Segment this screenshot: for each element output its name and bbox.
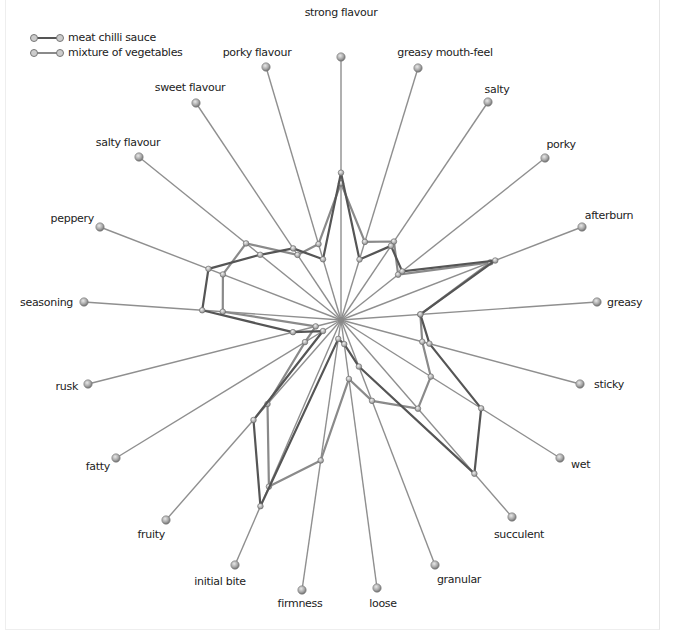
axis-label: strong flavour: [305, 6, 378, 19]
axis-end-knob-icon: [541, 154, 549, 162]
axis-end-knob-icon: [231, 561, 239, 569]
data-point: [220, 272, 226, 278]
data-point: [313, 324, 319, 330]
axis-label: greasy mouth-feel: [397, 46, 493, 59]
axis-labels: strong flavourgreasy mouth-feelsaltypork…: [20, 6, 643, 610]
axis-label: peppery: [51, 212, 95, 225]
axis-porky-flavour: [266, 67, 341, 320]
data-point: [295, 252, 301, 258]
axis-end-knob-icon: [593, 298, 601, 306]
data-point: [427, 341, 433, 347]
data-point: [346, 376, 352, 382]
axis-label: salty flavour: [96, 136, 161, 149]
axis-end-knob-icon: [135, 153, 143, 161]
data-point: [199, 307, 205, 313]
axis-end-knob-icon: [414, 64, 422, 72]
legend-label: meat chilli sauce: [68, 31, 156, 44]
axis-granular: [341, 320, 435, 565]
axis-sweet-flavour: [196, 103, 341, 320]
line-marker-icon: [30, 49, 64, 57]
axis-end-knob-icon: [192, 99, 200, 107]
center-hub: [338, 317, 344, 323]
data-point: [257, 252, 263, 258]
axis-end-knob-icon: [556, 454, 564, 462]
line-marker-icon: [30, 34, 64, 42]
axis-label: sticky: [594, 378, 625, 391]
axes-layer: [80, 53, 601, 594]
data-point: [428, 374, 434, 380]
data-point: [418, 312, 424, 318]
axis-end-knob-icon: [373, 584, 381, 592]
legend-item-mixture-of-vegetables: mixture of vegetables: [30, 45, 183, 60]
axis-label: loose: [369, 597, 397, 610]
legend: meat chilli sauce mixture of vegetables: [30, 30, 183, 60]
data-point: [335, 336, 341, 342]
data-point: [338, 170, 344, 176]
axis-end-knob-icon: [162, 516, 170, 524]
axis-loose: [341, 320, 377, 588]
axis-end-knob-icon: [96, 223, 104, 231]
data-point: [472, 471, 478, 477]
axis-end-knob-icon: [298, 586, 306, 594]
axis-label: firmness: [278, 597, 323, 610]
radar-chart: strong flavourgreasy mouth-feelsaltypork…: [0, 0, 673, 637]
axis-salty: [341, 102, 488, 320]
axis-label: salty: [485, 83, 511, 96]
axis-end-knob-icon: [578, 223, 586, 231]
axis-label: succulent: [494, 528, 545, 541]
data-point: [419, 339, 425, 345]
axis-label: initial bite: [194, 575, 246, 588]
data-point: [290, 246, 296, 252]
axis-end-knob-icon: [80, 298, 88, 306]
axis-label: porky: [546, 138, 576, 151]
axis-label: greasy: [607, 296, 643, 309]
axis-label: seasoning: [20, 296, 73, 309]
data-point: [316, 241, 322, 247]
data-point: [318, 458, 324, 464]
axis-end-knob-icon: [576, 380, 584, 388]
data-point: [341, 341, 347, 347]
data-point: [320, 256, 326, 262]
data-point: [357, 257, 363, 263]
axis-label: sweet flavour: [155, 81, 226, 94]
legend-item-meat-chilli-sauce: meat chilli sauce: [30, 30, 183, 45]
axis-wet: [341, 320, 560, 458]
axis-end-knob-icon: [508, 513, 516, 521]
data-point: [415, 406, 421, 412]
data-point: [206, 266, 212, 272]
data-point: [302, 339, 308, 345]
data-point: [492, 258, 498, 264]
data-point: [388, 243, 394, 249]
data-point: [258, 503, 264, 509]
axis-label: granular: [437, 573, 482, 586]
axis-end-knob-icon: [484, 98, 492, 106]
axis-end-knob-icon: [262, 63, 270, 71]
axis-salty-flavour: [139, 157, 341, 320]
data-point: [243, 241, 249, 247]
axis-label: fatty: [86, 460, 111, 473]
data-point: [362, 239, 368, 245]
axis-label: afterburn: [585, 209, 634, 222]
axis-label: rusk: [56, 380, 79, 393]
data-point: [356, 364, 362, 370]
axis-end-knob-icon: [337, 53, 345, 61]
axis-succulent: [341, 320, 512, 517]
axis-initial-bite: [235, 320, 341, 565]
data-point: [478, 406, 484, 412]
axis-end-knob-icon: [84, 380, 92, 388]
data-point: [251, 417, 257, 423]
axis-greasy-mouth-feel: [341, 68, 418, 320]
axis-label: wet: [571, 458, 591, 471]
axis-rusk: [88, 320, 341, 384]
axis-end-knob-icon: [431, 561, 439, 569]
axis-end-knob-icon: [112, 454, 120, 462]
axis-sticky: [341, 320, 580, 384]
data-point: [399, 269, 405, 275]
legend-label: mixture of vegetables: [68, 46, 183, 59]
data-point: [369, 398, 375, 404]
axis-label: porky flavour: [223, 46, 293, 59]
data-point: [290, 329, 296, 335]
axis-porky: [341, 158, 545, 320]
data-point: [320, 328, 326, 334]
axis-label: fruity: [138, 528, 166, 541]
